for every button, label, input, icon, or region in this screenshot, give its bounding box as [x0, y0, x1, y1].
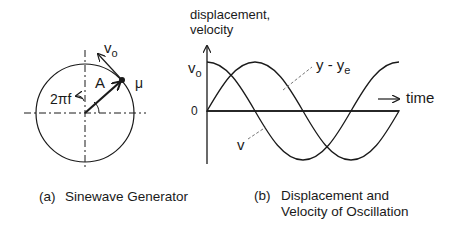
- caption-a: Sinewave Generator: [65, 189, 189, 204]
- caption-b-letter: (b): [254, 188, 271, 203]
- displacement-curve: [207, 62, 399, 160]
- y-tick-zero: 0: [191, 104, 198, 118]
- velocity-curve-label: v: [237, 136, 245, 153]
- x-axis-label: time: [406, 89, 434, 106]
- caption-b-line1: Displacement and: [281, 188, 389, 203]
- velocity-leader-line: [248, 127, 266, 139]
- mass-label: μ: [135, 75, 143, 91]
- panel-b-oscillation-chart: displacement, velocity vo 0 y - ye v tim…: [0, 0, 434, 219]
- angular-frequency-label: 2πf: [50, 91, 71, 107]
- displacement-curve-label: y - ye: [316, 56, 350, 76]
- caption-a-letter: (a): [39, 189, 56, 204]
- panel-a-sinewave-generator: vo A μ 2πf (a) Sinewave Generator: [24, 39, 189, 204]
- velocity-v0-label: vo: [104, 39, 118, 59]
- rotation-arrow-icon: [76, 96, 84, 101]
- oscillation-figure: vo A μ 2πf (a) Sinewave Generator displa…: [0, 0, 457, 227]
- caption-b-line2: Velocity of Oscillation: [281, 204, 409, 219]
- amplitude-label: A: [95, 74, 105, 91]
- displacement-leader-line: [283, 67, 312, 90]
- y-axis-label-line2: velocity: [190, 22, 234, 37]
- y-tick-v0: vo: [188, 59, 202, 79]
- y-axis-label-line1: displacement,: [190, 7, 270, 22]
